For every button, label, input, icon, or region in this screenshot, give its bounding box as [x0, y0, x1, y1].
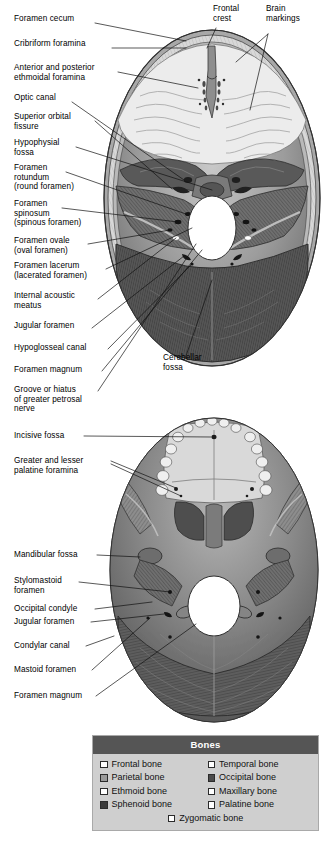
- leader-jugular-foramen: [92, 256, 184, 328]
- legend-item-zygomatic-bone: Zygomatic bone: [100, 812, 311, 826]
- anatomy-figure: Foramen cecum Cribriform foramina Anteri…: [0, 0, 327, 846]
- leader-occipital-condyle: [95, 602, 152, 609]
- legend-item-parietal-bone: Parietal bone: [100, 771, 204, 785]
- label-jugular-foramen-2: Jugular foramen: [14, 617, 74, 627]
- leader-internal-acoustic-meatus: [98, 238, 176, 299]
- label-foramen-ovale: Foramen ovale (oval foramen): [14, 236, 70, 255]
- label-foramen-magnum-2: Foramen magnum: [14, 691, 82, 701]
- leader-foramen-rotundum: [66, 172, 186, 214]
- leader-stylomastoid-foramen: [79, 582, 170, 592]
- legend-label-ethmoid-bone: Ethmoid bone: [112, 785, 168, 799]
- label-brain-markings: Brain markings: [266, 4, 300, 23]
- legend-swatch-maxillary-bone: [208, 788, 216, 796]
- label-incisive-fossa: Incisive fossa: [14, 431, 64, 441]
- legend-item-frontal-bone: Frontal bone: [100, 758, 204, 772]
- leader-frontal-crest: [207, 28, 216, 48]
- bones-legend: Bones Frontal bone Temporal bone Parieta…: [92, 735, 319, 831]
- legend-item-temporal-bone: Temporal bone: [208, 758, 312, 772]
- leader-cerebellar-fossa: [186, 280, 212, 356]
- legend-label-temporal-bone: Temporal bone: [219, 758, 279, 772]
- legend-swatch-zygomatic-bone: [168, 815, 176, 823]
- legend-swatch-frontal-bone: [100, 761, 108, 769]
- label-foramen-rotundum: Foramen rotundum (round foramen): [14, 163, 74, 192]
- leader-jugular-foramen-2: [91, 614, 164, 622]
- leader-incisive-fossa: [84, 436, 211, 437]
- legend-body: Frontal bone Temporal bone Parietal bone…: [93, 754, 318, 831]
- label-occipital-condyle: Occipital condyle: [14, 604, 77, 614]
- legend-label-zygomatic-bone: Zygomatic bone: [179, 812, 243, 826]
- label-condylar-canal: Condylar canal: [14, 641, 70, 651]
- legend-swatch-parietal-bone: [100, 774, 108, 782]
- leader-palatine-foramina-1: [111, 461, 176, 488]
- leader-foramen-ovale: [88, 230, 170, 244]
- label-cribriform-foramina: Cribriform foramina: [14, 39, 86, 49]
- leader-hypoglosseal-canal: [108, 264, 192, 349]
- legend-grid: Frontal bone Temporal bone Parietal bone…: [100, 758, 311, 826]
- label-optic-canal: Optic canal: [14, 93, 56, 103]
- label-groove-greater-petrosal-nerve: Groove or hiatus of greater petrosal ner…: [14, 385, 82, 414]
- legend-swatch-occipital-bone: [208, 774, 216, 782]
- legend-item-palatine-bone: Palatine bone: [208, 798, 312, 812]
- label-internal-acoustic-meatus: Internal acoustic meatus: [14, 291, 75, 310]
- leader-palatine-foramina-2: [111, 464, 181, 496]
- label-cerebellar-fossa: Cerebellar fossa: [163, 353, 202, 372]
- leader-brain-markings-2: [250, 34, 268, 110]
- label-hypoglosseal-canal: Hypoglosseal canal: [14, 343, 86, 353]
- leader-superior-orbital-fissure: [95, 121, 172, 189]
- legend-label-occipital-bone: Occipital bone: [219, 771, 276, 785]
- label-foramen-magnum: Foramen magnum: [14, 365, 82, 375]
- legend-label-frontal-bone: Frontal bone: [112, 758, 163, 772]
- legend-swatch-sphenoid-bone: [100, 801, 108, 809]
- label-frontal-crest: Frontal crest: [213, 4, 239, 23]
- legend-swatch-temporal-bone: [208, 761, 216, 769]
- legend-label-maxillary-bone: Maxillary bone: [219, 785, 277, 799]
- legend-label-parietal-bone: Parietal bone: [112, 771, 165, 785]
- legend-item-ethmoid-bone: Ethmoid bone: [100, 785, 204, 799]
- label-mandibular-fossa: Mandibular fossa: [14, 550, 78, 560]
- legend-item-maxillary-bone: Maxillary bone: [208, 785, 312, 799]
- legend-label-sphenoid-bone: Sphenoid bone: [112, 798, 173, 812]
- label-mastoid-foramen: Mastoid foramen: [14, 665, 76, 675]
- label-superior-orbital-fissure: Superior orbital fissure: [14, 112, 71, 131]
- label-foramen-cecum: Foramen cecum: [14, 14, 74, 24]
- leader-foramen-lacerum: [106, 228, 192, 269]
- label-hypophysial-fossa: Hypophysial fossa: [14, 138, 60, 157]
- legend-item-sphenoid-bone: Sphenoid bone: [100, 798, 204, 812]
- label-stylomastoid-foramen: Stylomastoid foramen: [14, 576, 62, 595]
- legend-item-occipital-bone: Occipital bone: [208, 771, 312, 785]
- leader-condylar-canal: [86, 636, 114, 646]
- leader-brain-markings-1: [236, 34, 268, 62]
- leader-optic-canal: [72, 102, 184, 180]
- leader-mastoid-foramen: [92, 618, 150, 670]
- leader-mandibular-fossa: [97, 555, 140, 557]
- leader-ethmoidal-foramina: [118, 72, 198, 88]
- label-ethmoidal-foramina: Anterior and posterior ethmoidal foramin…: [14, 63, 95, 82]
- leader-foramen-magnum-2: [96, 624, 196, 696]
- leader-hypophysial-fossa: [76, 147, 212, 190]
- label-foramen-spinosum: Foramen spinosum (spinous foramen): [14, 199, 81, 228]
- label-palatine-foramina: Greater and lesser palatine foramina: [14, 456, 83, 475]
- legend-title: Bones: [93, 736, 318, 754]
- label-foramen-lacerum: Foramen lacerum (lacerated foramen): [14, 261, 87, 280]
- legend-swatch-palatine-bone: [208, 801, 216, 809]
- leader-foramen-cecum: [95, 23, 186, 41]
- legend-label-palatine-bone: Palatine bone: [219, 798, 274, 812]
- legend-swatch-ethmoid-bone: [100, 788, 108, 796]
- label-jugular-foramen: Jugular foramen: [14, 321, 74, 331]
